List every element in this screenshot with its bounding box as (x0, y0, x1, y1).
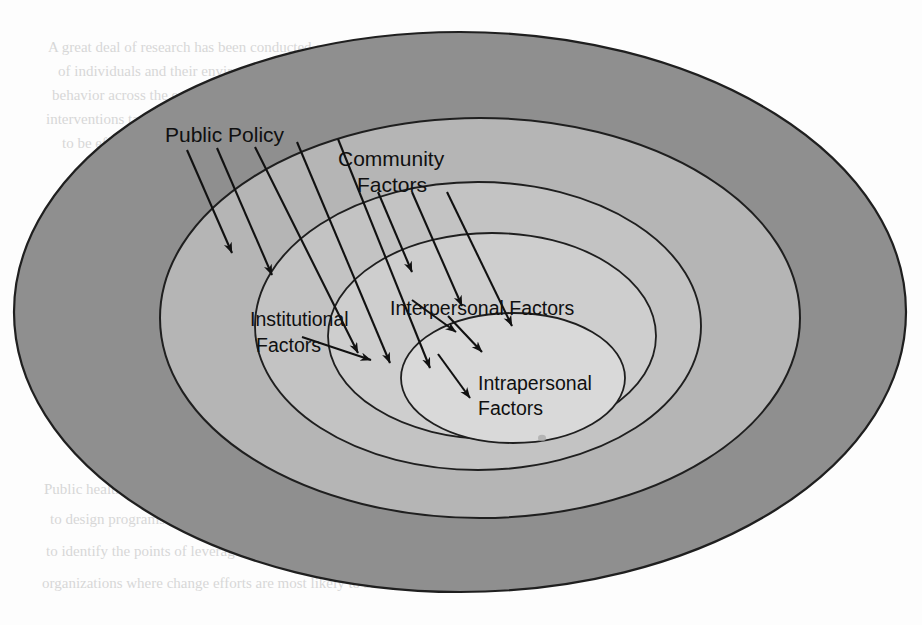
label-intrapersonal-line2: Factors (478, 397, 543, 419)
label-community-line1: Community (338, 147, 445, 170)
print-speck (538, 435, 546, 441)
label-intrapersonal-line1: Intrapersonal (478, 372, 592, 394)
figure-canvas: A great deal of research has been conduc… (0, 0, 922, 625)
label-community-line2: Factors (357, 173, 427, 196)
ecological-model-diagram: A great deal of research has been conduc… (0, 0, 922, 625)
label-interpersonal: Interpersonal Factors (390, 297, 575, 319)
label-institutional-line1: Institutional (250, 308, 349, 330)
label-public-policy: Public Policy (165, 123, 285, 146)
label-institutional-line2: Factors (256, 334, 321, 356)
